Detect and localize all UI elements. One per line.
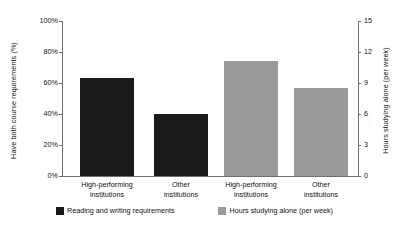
category-label: Otherinstitutions (278, 180, 364, 199)
right-tick-mark (358, 114, 361, 115)
legend-item: Reading and writing requirements (56, 206, 174, 215)
left-tick-mark (59, 176, 62, 177)
category-label-line2: institutions (278, 190, 364, 200)
right-tick-label: 0 (364, 172, 368, 179)
left-axis-title: Have both course requirements (%) (9, 26, 18, 176)
left-tick-label: 60% (44, 79, 58, 86)
left-tick-mark (59, 114, 62, 115)
right-axis-title: Hours studying alone (per week) (381, 26, 390, 176)
right-tick-mark (358, 83, 361, 84)
chart-legend: Reading and writing requirementsHours st… (56, 206, 333, 215)
right-tick-mark (358, 145, 361, 146)
bar (80, 78, 134, 176)
legend-label: Reading and writing requirements (67, 206, 174, 215)
legend-swatch-icon (218, 207, 226, 215)
bar-chart: Have both course requirements (%) Hours … (0, 0, 397, 230)
category-label-line1: Other (278, 180, 364, 190)
left-tick-mark (59, 83, 62, 84)
left-tick-label: 0% (48, 172, 58, 179)
right-tick-label: 12 (364, 48, 372, 55)
legend-swatch-icon (56, 207, 64, 215)
right-tick-label: 15 (364, 17, 372, 24)
right-axis-line (358, 21, 359, 176)
left-tick-label: 80% (44, 48, 58, 55)
right-tick-label: 3 (364, 141, 368, 148)
bottom-axis-line (62, 176, 359, 177)
left-tick-label: 100% (40, 17, 58, 24)
legend-label: Hours studying alone (per week) (229, 206, 332, 215)
right-tick-mark (358, 52, 361, 53)
bar (154, 114, 208, 176)
left-tick-mark (59, 52, 62, 53)
legend-item: Hours studying alone (per week) (218, 206, 332, 215)
right-tick-mark (358, 176, 361, 177)
left-tick-label: 40% (44, 110, 58, 117)
left-tick-mark (59, 21, 62, 22)
right-tick-mark (358, 21, 361, 22)
left-tick-mark (59, 145, 62, 146)
left-axis-line (62, 21, 63, 176)
left-tick-label: 20% (44, 141, 58, 148)
plot-area: 100%80%60%40%20%0% 15129630 High-perform… (62, 21, 359, 176)
right-tick-label: 6 (364, 110, 368, 117)
right-tick-label: 9 (364, 79, 368, 86)
bar (294, 88, 348, 176)
bar (224, 61, 278, 176)
